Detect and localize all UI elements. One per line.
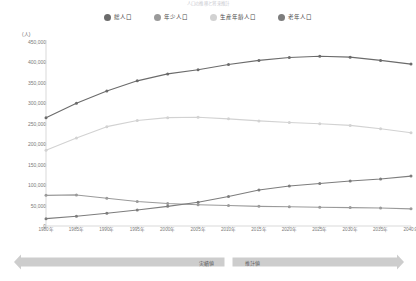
series-point — [136, 79, 139, 82]
series-point — [227, 204, 230, 207]
series-point — [75, 137, 78, 140]
series-dot-icon — [154, 14, 161, 21]
x-axis-tick-label: 1990年 — [99, 226, 114, 232]
series-point — [45, 149, 48, 152]
legend-item-label: 生産年齢人口 — [220, 13, 256, 21]
series-point — [410, 131, 413, 134]
legend-item[interactable]: 生産年齢人口 — [210, 13, 256, 21]
actual-range-label: 実績値 — [199, 259, 214, 266]
series-総人口 — [45, 55, 413, 119]
series-point — [318, 122, 321, 125]
series-point — [105, 212, 108, 215]
series-point — [349, 206, 352, 209]
series-point — [288, 184, 291, 187]
series-dot-icon — [104, 14, 111, 21]
series-point — [227, 63, 230, 66]
x-axis-tick-label: 1995年 — [130, 226, 145, 232]
x-axis-tick-label: 2025年 — [312, 226, 327, 232]
plot-area: (人) 450,000400,000350,000300,000250,0002… — [0, 30, 416, 245]
legend-item[interactable]: 老年人口 — [278, 13, 312, 21]
series-point — [349, 180, 352, 183]
series-point — [410, 207, 413, 210]
series-point — [45, 217, 48, 220]
chart-title-fragment: 人口の推移と将来推計 — [0, 0, 416, 7]
legend-item-label: 老年人口 — [288, 13, 312, 21]
series-line — [46, 117, 411, 150]
series-point — [288, 205, 291, 208]
series-point — [318, 182, 321, 185]
series-point — [257, 205, 260, 208]
x-axis-tick-label: 2010年 — [221, 226, 236, 232]
series-point — [257, 119, 260, 122]
x-axis-tick-label: 2015年 — [251, 226, 266, 232]
series-point — [410, 63, 413, 66]
actual-range-arrow — [14, 255, 225, 270]
chart-canvas — [0, 30, 416, 230]
series-point — [105, 197, 108, 200]
range-annotation-bars: 実績値 推計値 — [0, 248, 416, 281]
series-point — [166, 116, 169, 119]
series-point — [379, 59, 382, 62]
series-point — [45, 194, 48, 197]
series-point — [379, 127, 382, 130]
series-point — [197, 68, 200, 71]
x-axis-tick-label: 2020年 — [282, 226, 297, 232]
series-point — [410, 175, 413, 178]
series-point — [166, 72, 169, 75]
x-axis-tick-label: 1980年 — [38, 226, 53, 232]
series-生産年齢人口 — [45, 116, 413, 152]
x-axis-tick-label: 2040年 — [403, 226, 416, 232]
series-point — [136, 200, 139, 203]
series-point — [349, 56, 352, 59]
series-point — [105, 90, 108, 93]
x-axis-tick-label: 2000年 — [160, 226, 175, 232]
series-point — [136, 119, 139, 122]
x-axis-tick-label: 2030年 — [343, 226, 358, 232]
legend-item-label: 年少人口 — [164, 13, 188, 21]
series-point — [318, 55, 321, 58]
series-point — [379, 177, 382, 180]
series-point — [45, 116, 48, 119]
series-point — [257, 59, 260, 62]
series-point — [227, 117, 230, 120]
series-point — [227, 195, 230, 198]
chart-page: 人口の推移と将来推計 総人口年少人口生産年齢人口老年人口 (人) 450,000… — [0, 0, 416, 281]
legend-item[interactable]: 総人口 — [104, 13, 132, 21]
x-axis-tick-label: 1985年 — [69, 226, 84, 232]
series-point — [257, 189, 260, 192]
x-axis-tick-label: 2005年 — [190, 226, 205, 232]
series-point — [197, 116, 200, 119]
series-dot-icon — [210, 14, 217, 21]
series-point — [75, 215, 78, 218]
series-point — [197, 201, 200, 204]
x-axis-tick-labels: 1980年1985年1990年1995年2000年2005年2010年2015年… — [46, 226, 411, 240]
series-point — [105, 125, 108, 128]
series-dot-icon — [278, 14, 285, 21]
series-point — [166, 205, 169, 208]
series-point — [349, 124, 352, 127]
series-point — [136, 209, 139, 212]
series-point — [75, 102, 78, 105]
chart-legend: 総人口年少人口生産年齢人口老年人口 — [0, 13, 416, 21]
legend-item-label: 総人口 — [114, 13, 132, 21]
estimate-range-label: 推計値 — [245, 259, 260, 266]
series-point — [318, 206, 321, 209]
series-point — [379, 207, 382, 210]
series-point — [166, 202, 169, 205]
series-point — [288, 121, 291, 124]
series-point — [75, 193, 78, 196]
legend-item[interactable]: 年少人口 — [154, 13, 188, 21]
x-axis-tick-label: 2035年 — [373, 226, 388, 232]
series-point — [288, 56, 291, 59]
